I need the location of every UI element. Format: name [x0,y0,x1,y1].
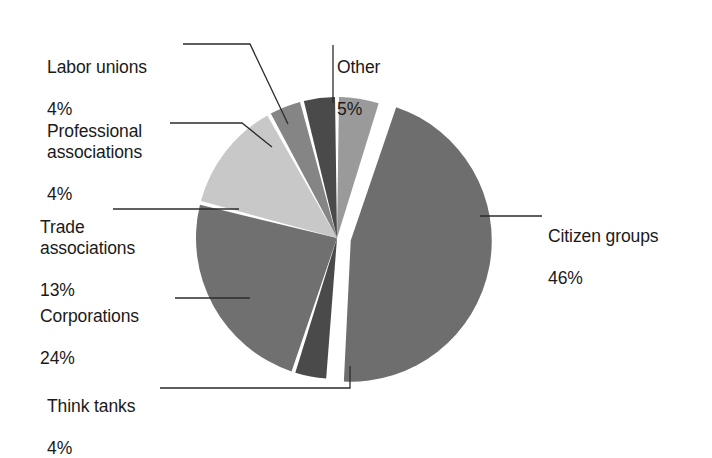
label-trade-associations-category: Trade associations [40,217,190,259]
label-other: Other 5% [337,36,457,141]
label-think-tanks-value: 4% [47,438,207,458]
label-other-category: Other [337,57,457,78]
label-professional-associations-category: Professional associations [47,121,197,163]
label-citizen-groups: Citizen groups 46% [548,205,712,310]
label-citizen-groups-category: Citizen groups [548,226,712,247]
label-corporations-value: 24% [40,348,210,369]
label-think-tanks-category: Think tanks [47,396,207,417]
label-citizen-groups-value: 46% [548,268,712,289]
label-think-tanks: Think tanks 4% [47,375,207,458]
label-labor-unions-category: Labor unions [47,57,207,78]
label-corporations-category: Corporations [40,306,210,327]
label-other-value: 5% [337,99,457,120]
